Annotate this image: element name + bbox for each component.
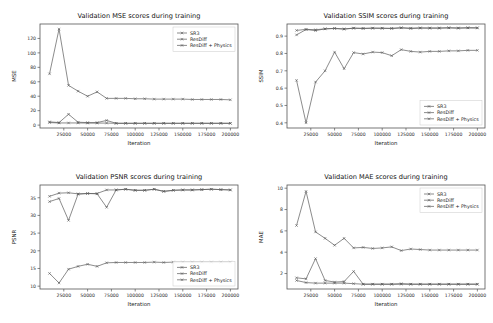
legend-label: ResDiff (190, 37, 208, 42)
data-point-marker (352, 270, 355, 273)
legend-label: ResDiff + Physics (190, 278, 232, 283)
matplotlib-figure: Validation MSE scores during training250… (0, 0, 493, 323)
x-tick-label: 175000 (445, 293, 463, 298)
x-tick-label: 75000 (351, 132, 366, 137)
x-tick-label: 175000 (198, 293, 216, 298)
data-point-marker (333, 244, 336, 247)
x-tick-label: 50000 (327, 132, 342, 137)
legend-label: ResDiff (437, 198, 455, 203)
x-tick-label: 175000 (445, 132, 463, 137)
subplot-mae: Validation MAE scores during training250… (247, 161, 493, 323)
x-tick-label: 150000 (174, 293, 192, 298)
y-tick-label: 60 (30, 80, 36, 85)
legend-label: ResDiff + Physics (437, 204, 479, 209)
data-point-marker (343, 237, 346, 240)
data-point-marker (105, 206, 108, 209)
y-tick-label: 0.9 (276, 34, 283, 39)
data-point-marker (96, 91, 99, 94)
x-tick-label: 175000 (198, 132, 216, 137)
y-tick-label: 0.7 (276, 69, 283, 74)
x-tick-label: 100000 (373, 293, 391, 298)
x-tick-label: 200000 (469, 293, 487, 298)
series-line (50, 123, 231, 124)
x-tick-label: 75000 (104, 132, 119, 137)
subplot-mse: Validation MSE scores during training250… (0, 0, 246, 162)
x-tick-label: 125000 (397, 132, 415, 137)
data-point-marker (77, 90, 80, 93)
data-point-marker (295, 34, 298, 37)
y-tick-label: 2 (280, 271, 283, 276)
x-tick-label: 75000 (104, 293, 119, 298)
legend: SR3ResDiffResDiff + Physics (173, 261, 235, 286)
chart-title: Validation MAE scores during training (324, 173, 447, 181)
subplot-ssim: Validation SSIM scores during training25… (247, 0, 493, 162)
x-axis-label: Iteration (375, 140, 398, 146)
y-tick-label: 80 (30, 65, 36, 70)
data-point-marker (67, 113, 70, 116)
x-axis-label: Iteration (128, 301, 151, 307)
subplot-mse-svg: Validation MSE scores during training250… (0, 0, 246, 162)
x-tick-label: 125000 (397, 293, 415, 298)
legend-label: SR3 (190, 31, 199, 36)
y-axis-label: PSNR (11, 230, 17, 245)
subplot-psnr: Validation PSNR scores during training25… (0, 161, 246, 323)
x-tick-label: 25000 (56, 132, 71, 137)
y-tick-label: 0.5 (276, 103, 283, 108)
y-tick-label: 0.4 (276, 121, 283, 126)
legend-label: ResDiff (190, 271, 208, 276)
x-tick-label: 150000 (421, 132, 439, 137)
data-point-marker (48, 272, 51, 275)
x-tick-label: 100000 (126, 132, 144, 137)
data-point-marker (324, 237, 327, 240)
x-axis-label: Iteration (375, 301, 398, 307)
legend: SR3ResDiffResDiff + Physics (173, 27, 235, 52)
x-tick-label: 50000 (327, 293, 342, 298)
legend: SR3ResDiffResDiff + Physics (420, 100, 482, 125)
x-tick-label: 150000 (421, 293, 439, 298)
data-point-marker (343, 67, 346, 70)
y-tick-label: 40 (30, 94, 36, 99)
legend-label: ResDiff + Physics (437, 117, 479, 122)
y-tick-label: 25 (30, 231, 36, 236)
y-axis-label: SSIM (258, 69, 264, 82)
y-tick-label: 10 (277, 186, 283, 191)
x-tick-label: 125000 (150, 293, 168, 298)
x-tick-label: 50000 (80, 132, 95, 137)
y-tick-label: 120 (27, 36, 36, 41)
y-tick-label: 0.6 (276, 86, 283, 91)
data-point-marker (58, 282, 61, 285)
x-tick-label: 200000 (222, 132, 240, 137)
y-tick-label: 100 (27, 51, 36, 56)
series-line (50, 114, 231, 123)
y-tick-label: 10 (30, 284, 36, 289)
y-tick-label: 8 (280, 207, 283, 212)
subplot-ssim-svg: Validation SSIM scores during training25… (247, 0, 493, 162)
x-tick-label: 50000 (80, 293, 95, 298)
y-axis-label: MAE (258, 231, 264, 243)
series-line (297, 259, 478, 285)
data-point-marker (324, 70, 327, 73)
y-tick-label: 0 (33, 123, 36, 128)
y-tick-label: 35 (30, 196, 36, 201)
x-tick-label: 125000 (150, 132, 168, 137)
legend-label: SR3 (437, 104, 446, 109)
chart-title: Validation MSE scores during training (78, 12, 201, 20)
x-axis-label: Iteration (128, 140, 151, 146)
x-tick-label: 200000 (222, 293, 240, 298)
x-tick-label: 25000 (56, 293, 71, 298)
chart-title: Validation PSNR scores during training (76, 173, 203, 181)
legend-label: SR3 (190, 265, 199, 270)
data-point-marker (333, 51, 336, 54)
y-tick-label: 30 (30, 213, 36, 218)
x-tick-label: 25000 (303, 293, 318, 298)
x-tick-label: 25000 (303, 132, 318, 137)
x-tick-label: 75000 (351, 293, 366, 298)
legend-label: ResDiff + Physics (190, 43, 232, 48)
y-tick-label: 6 (280, 229, 283, 234)
legend-label: SR3 (437, 192, 446, 197)
y-tick-label: 20 (30, 108, 36, 113)
y-axis-label: MSE (11, 70, 17, 82)
y-tick-label: 4 (280, 250, 283, 255)
x-tick-label: 200000 (469, 132, 487, 137)
series-line (297, 280, 478, 284)
